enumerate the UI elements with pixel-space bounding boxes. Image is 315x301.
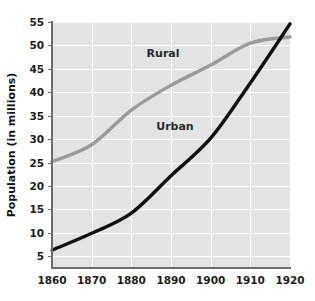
y-tick-label-25: 25 <box>29 157 44 169</box>
series-label-urban: Urban <box>156 120 194 133</box>
x-tick-label-1890: 1890 <box>156 274 185 286</box>
x-tick-label-1880: 1880 <box>117 274 146 286</box>
y-tick-label-55: 55 <box>29 16 44 28</box>
y-tick-label-10: 10 <box>29 227 44 239</box>
x-tick-label-1920: 1920 <box>275 274 304 286</box>
series-label-rural: Rural <box>147 47 180 60</box>
y-tick-label-35: 35 <box>29 110 44 122</box>
chart-canvas: 510152025303540455055 186018701880189019… <box>0 0 315 301</box>
y-tick-label-45: 45 <box>29 63 44 75</box>
y-tick-label-15: 15 <box>29 203 44 215</box>
x-tick-label-1860: 1860 <box>37 274 66 286</box>
population-line-chart: 510152025303540455055 186018701880189019… <box>0 0 315 301</box>
y-tick-label-20: 20 <box>29 180 44 192</box>
y-tick-label-50: 50 <box>29 39 44 51</box>
y-tick-label-5: 5 <box>37 250 44 262</box>
y-tick-label-40: 40 <box>29 86 44 98</box>
x-tick-label-1910: 1910 <box>236 274 265 286</box>
y-tick-label-30: 30 <box>29 133 44 145</box>
x-tick-label-1870: 1870 <box>77 274 106 286</box>
y-axis-title: Population (in millions) <box>5 73 18 218</box>
x-axis-tick-labels: 1860187018801890190019101920 <box>37 274 304 286</box>
x-tick-label-1900: 1900 <box>196 274 225 286</box>
